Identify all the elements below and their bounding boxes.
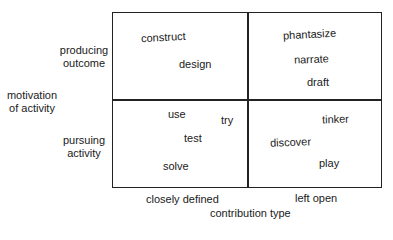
term-draft: draft — [307, 76, 329, 89]
term-use: use — [168, 108, 186, 121]
row-label-pursuing-activity: pursuing activity — [58, 134, 110, 160]
term-solve: solve — [163, 160, 189, 173]
y-axis-title: motivation of activity — [2, 89, 62, 115]
term-narrate: narrate — [294, 52, 329, 66]
y-axis-title-line2: of activity — [2, 102, 62, 115]
term-try: try — [221, 114, 233, 127]
row-label-line2: outcome — [58, 57, 110, 70]
column-label-closely-defined: closely defined — [146, 193, 219, 206]
row-label-producing-outcome: producing outcome — [58, 44, 110, 70]
row-label-line1: producing — [58, 44, 110, 57]
row-label-line2: activity — [58, 147, 110, 160]
term-test: test — [184, 132, 202, 145]
y-axis-title-line1: motivation — [2, 89, 62, 102]
row-label-line1: pursuing — [58, 134, 110, 147]
term-design: design — [179, 58, 211, 71]
x-axis-title: contribution type — [210, 207, 291, 220]
column-label-left-open: left open — [295, 192, 337, 205]
term-construct: construct — [141, 30, 186, 45]
term-play: play — [319, 157, 339, 170]
horizontal-divider — [112, 99, 382, 101]
term-tinker: tinker — [322, 113, 349, 127]
term-discover: discover — [270, 135, 311, 149]
term-phantasize: phantasize — [283, 27, 337, 43]
